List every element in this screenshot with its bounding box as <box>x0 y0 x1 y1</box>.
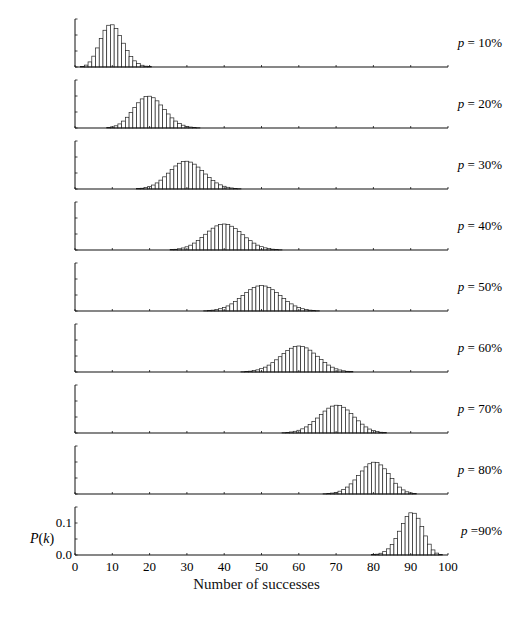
bar <box>256 286 260 311</box>
bar <box>148 96 152 128</box>
bar <box>88 62 92 67</box>
bar <box>271 363 275 372</box>
bar <box>331 367 335 372</box>
panel-60: p = 60% <box>75 324 502 372</box>
x-tick-label: 40 <box>218 559 231 574</box>
panel-label: p = 80% <box>457 462 502 477</box>
bar <box>357 421 361 433</box>
bar <box>252 243 256 250</box>
bar <box>110 25 114 67</box>
bar <box>364 427 368 433</box>
x-tick-label: 60 <box>292 559 305 574</box>
bar <box>301 346 305 372</box>
bar <box>275 292 279 311</box>
bar <box>409 513 413 555</box>
bar <box>386 549 390 555</box>
bar <box>331 406 335 433</box>
x-tick-label: 30 <box>180 559 193 574</box>
bar <box>308 350 312 372</box>
bar <box>200 170 204 189</box>
bar <box>248 290 252 311</box>
bar <box>155 183 159 189</box>
bar <box>170 118 174 128</box>
panel-label: p = 70% <box>457 401 502 416</box>
bar <box>289 304 293 311</box>
x-tick-label: 100 <box>438 559 458 574</box>
bar <box>219 224 223 250</box>
x-tick-label: 80 <box>367 559 380 574</box>
panel-20: p = 20% <box>75 80 502 128</box>
bar <box>353 417 357 433</box>
panel-10: p = 10% <box>75 19 502 67</box>
bar <box>174 166 178 189</box>
bar <box>338 406 342 433</box>
bar <box>207 231 211 250</box>
bar <box>345 410 349 433</box>
bar <box>372 462 376 494</box>
bar <box>204 174 208 189</box>
bar <box>357 476 361 494</box>
bar <box>103 30 107 67</box>
bar <box>189 245 193 250</box>
x-tick-label: 50 <box>255 559 268 574</box>
bar <box>267 287 271 311</box>
bar <box>379 465 383 494</box>
bar <box>241 235 245 250</box>
bar <box>401 523 405 555</box>
panel-label: p = 20% <box>457 96 502 111</box>
bar <box>155 101 159 128</box>
bar <box>222 224 226 250</box>
bar <box>96 48 100 67</box>
bar <box>345 487 349 494</box>
bar <box>170 169 174 189</box>
bar <box>92 56 96 67</box>
bar <box>383 469 387 494</box>
bar <box>219 185 223 189</box>
bar <box>193 243 197 250</box>
bar <box>394 483 398 494</box>
bar <box>323 362 327 372</box>
bar <box>248 241 252 250</box>
bar <box>99 39 103 67</box>
bar <box>122 43 126 67</box>
bar <box>215 183 219 189</box>
bar <box>364 467 368 494</box>
bar <box>252 287 256 311</box>
bar <box>319 414 323 433</box>
x-tick-label: 90 <box>404 559 417 574</box>
bar <box>166 114 170 128</box>
bar <box>386 474 390 494</box>
bar <box>316 418 320 433</box>
bar <box>390 479 394 494</box>
x-tick-label: 20 <box>143 559 156 574</box>
bar <box>226 306 230 311</box>
panel-label: p = 10% <box>457 35 502 50</box>
bar <box>237 232 241 250</box>
bar <box>189 162 193 189</box>
bar <box>114 29 118 67</box>
bar <box>125 117 129 128</box>
bar <box>431 550 435 555</box>
bar <box>163 177 167 189</box>
bar <box>424 536 428 555</box>
bar <box>293 306 297 311</box>
panel-80: p = 80% <box>75 446 502 494</box>
bar <box>286 301 290 311</box>
bar <box>278 295 282 311</box>
x-axis-label: Number of successes <box>0 576 513 593</box>
bar <box>282 299 286 311</box>
bar <box>416 518 420 555</box>
bar <box>137 103 141 128</box>
bar <box>304 427 308 433</box>
y-axis-label: P(k) <box>29 531 54 547</box>
bar <box>304 348 308 372</box>
x-tick-label: 10 <box>106 559 119 574</box>
bar <box>245 292 249 311</box>
bar <box>230 226 234 250</box>
bar <box>401 490 405 494</box>
bar <box>360 424 364 433</box>
bar <box>196 167 200 189</box>
bar <box>398 487 402 494</box>
bar <box>129 113 133 128</box>
bar <box>159 105 163 128</box>
